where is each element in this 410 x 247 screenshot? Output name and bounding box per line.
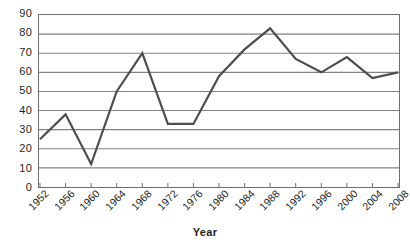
x-tick-label: 1996 bbox=[302, 188, 334, 220]
x-tick-label: 1968 bbox=[122, 188, 154, 220]
x-axis-tick-marks bbox=[40, 183, 398, 187]
y-tick-label: 80 bbox=[19, 27, 32, 38]
gridlines bbox=[39, 15, 399, 168]
x-tick-label: 1984 bbox=[225, 188, 257, 220]
x-tick-label: 2008 bbox=[379, 188, 410, 220]
x-tick-label: 1964 bbox=[96, 188, 128, 220]
x-tick-label: 1960 bbox=[70, 188, 102, 220]
x-tick-label: 1980 bbox=[199, 188, 231, 220]
data-series-line bbox=[40, 28, 398, 164]
y-tick-label: 40 bbox=[19, 105, 32, 116]
x-axis-title: Year bbox=[0, 226, 410, 238]
y-tick-label: 50 bbox=[19, 85, 32, 96]
y-tick-label: 70 bbox=[19, 47, 32, 58]
x-tick-label: 1992 bbox=[276, 188, 308, 220]
y-tick-label: 0 bbox=[26, 182, 32, 193]
x-axis-tick-labels: 1952195619601964196819721976198019841988… bbox=[38, 188, 400, 228]
plot-area bbox=[38, 14, 400, 188]
y-tick-label: 30 bbox=[19, 124, 32, 135]
line-chart: 0102030405060708090 19521956196019641968… bbox=[0, 0, 410, 247]
x-tick-label: 2000 bbox=[328, 188, 360, 220]
plot-svg bbox=[39, 15, 399, 187]
y-tick-label: 10 bbox=[19, 163, 32, 174]
x-tick-label: 2004 bbox=[353, 188, 385, 220]
y-tick-label: 20 bbox=[19, 143, 32, 154]
x-tick-label: 1988 bbox=[250, 188, 282, 220]
y-tick-label: 90 bbox=[19, 8, 32, 19]
x-tick-label: 1972 bbox=[148, 188, 180, 220]
y-tick-label: 60 bbox=[19, 66, 32, 77]
x-tick-label: 1976 bbox=[173, 188, 205, 220]
x-tick-label: 1956 bbox=[45, 188, 77, 220]
